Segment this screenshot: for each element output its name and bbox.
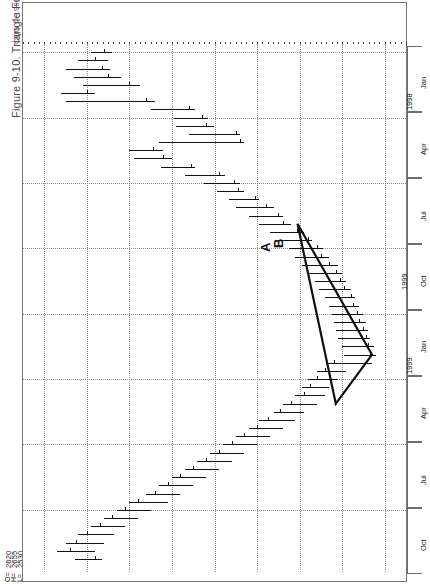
date-axis-year-label: 1998 (405, 93, 414, 110)
ohlc-close-tick (370, 352, 371, 355)
ohlc-close-tick (340, 278, 341, 281)
ohlc-close-tick (266, 204, 267, 207)
ohlc-close-tick (138, 499, 139, 502)
ohlc-close-tick (125, 507, 126, 510)
price-gridline (385, 44, 386, 572)
ohlc-close-tick (100, 523, 101, 526)
ohlc-close-tick (359, 319, 360, 322)
ohlc-close-tick (87, 531, 88, 534)
date-axis-label: Jan (419, 77, 428, 89)
ohlc-bar (117, 510, 151, 511)
ohlc-close-tick (87, 90, 88, 93)
date-axis-cell: Apr (407, 376, 422, 442)
ohlc-bar (74, 77, 121, 78)
date-axis-label: Apr (419, 407, 428, 419)
price-plot-area[interactable] (23, 44, 406, 572)
ohlc-bar (344, 355, 376, 356)
ohlc-bar (185, 469, 219, 470)
ohlc-bar (176, 126, 214, 127)
ohlc-close-tick (206, 458, 207, 461)
ohlc-close-tick (153, 147, 154, 150)
ohlc-bar (129, 502, 167, 503)
ohlc-close-tick (366, 335, 367, 338)
ohlc-close-tick (202, 115, 203, 118)
ohlc-bar (75, 559, 102, 560)
ohlc-bar (78, 534, 114, 535)
ohlc-bar (129, 150, 163, 151)
ohlc-close-tick (310, 384, 311, 387)
ohlc-bar (61, 93, 95, 94)
ohlc-bar (210, 453, 244, 454)
date-axis-label: Oct (419, 539, 428, 551)
ohlc-close-tick (317, 376, 318, 379)
ohlc-close-tick (180, 474, 181, 477)
date-axis-cell: Oct (407, 244, 422, 310)
ohlc-close-tick (95, 57, 96, 60)
ohlc-bar (236, 436, 270, 437)
ohlc-close-tick (193, 466, 194, 469)
ohlc-close-tick (353, 303, 354, 306)
ohlc-close-tick (321, 254, 322, 257)
price-gridline (257, 44, 258, 572)
ohlc-bar (259, 224, 291, 225)
ohlc-bar (259, 420, 295, 421)
ohlc-close-tick (255, 196, 256, 199)
ohlc-bar (327, 363, 372, 364)
ohlc-bar (172, 477, 206, 478)
ohlc-close-tick (234, 180, 235, 183)
date-axis-cell: Jul (407, 178, 422, 244)
ohlc-bar (185, 175, 225, 176)
ohlc-bar (236, 207, 274, 208)
ohlc-bar (283, 404, 317, 405)
ohlc-bar (197, 461, 231, 462)
ohlc-bar (315, 281, 347, 282)
price-gridline (87, 44, 88, 572)
ohlc-close-tick (304, 392, 305, 395)
ohlc-bar (204, 183, 240, 184)
ohlc-bar (289, 248, 323, 249)
ohlc-close-tick (236, 131, 237, 134)
ohlc-close-tick (238, 188, 239, 191)
ohlc-bar (91, 526, 125, 527)
ohlc-bar (295, 395, 325, 396)
date-axis-cell: Apr (407, 112, 422, 178)
ohlc-close-tick (257, 425, 258, 428)
ohlc-bar (332, 314, 364, 315)
chart-screenshot: Figure 9-10. Triangle Formation CQG © 19… (0, 0, 430, 584)
price-gridline (215, 44, 216, 572)
ohlc-close-tick (297, 229, 298, 232)
ohlc-close-tick (368, 343, 369, 346)
ohlc-bar (146, 494, 180, 495)
ohlc-close-tick (308, 237, 309, 240)
ohlc-close-tick (163, 155, 164, 158)
ohlc-bar (317, 371, 347, 372)
price-gridline (300, 44, 301, 572)
ohlc-bar (229, 199, 259, 200)
ohlc-bar (334, 322, 366, 323)
ohlc-bar (161, 167, 195, 168)
ohlc-bar (159, 142, 244, 143)
ohlc-bar (249, 216, 283, 217)
ohlc-bar (295, 257, 329, 258)
ohlc-bar (104, 518, 138, 519)
ohlc-close-tick (112, 515, 113, 518)
ohlc-close-tick (219, 172, 220, 175)
ohlc-bar (57, 551, 95, 552)
ohlc-bar (66, 101, 155, 102)
ohlc-bar (66, 69, 111, 70)
ohlc-bar (302, 265, 338, 266)
ohlc-bar (319, 289, 351, 290)
date-axis-cell: Oct (407, 508, 422, 574)
ohlc-bar (83, 85, 140, 86)
ohlc-close-tick (104, 49, 105, 52)
ohlc-bar (249, 428, 283, 429)
ohlc-close-tick (334, 360, 335, 363)
ohlc-bar (274, 412, 304, 413)
ohlc-close-tick (280, 409, 281, 412)
ohlc-close-tick (317, 245, 318, 248)
ohlc-bar (302, 387, 330, 388)
ohlc-close-tick (232, 441, 233, 444)
date-axis-label: Apr (419, 143, 428, 155)
ohlc-close-tick (108, 74, 109, 77)
ohlc-close-tick (102, 66, 103, 69)
